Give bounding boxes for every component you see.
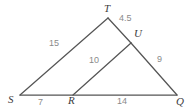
measure-label-RU: 10 xyxy=(89,56,99,65)
segment-RU xyxy=(73,43,131,95)
measure-label-UQ: 9 xyxy=(157,55,162,64)
vertex-label-U: U xyxy=(134,28,142,39)
measure-label-RQ: 14 xyxy=(117,97,127,106)
measure-label-TU: 4.5 xyxy=(119,14,132,23)
vertex-label-Q: Q xyxy=(176,96,184,107)
measure-label-SR: 7 xyxy=(38,98,43,107)
measure-label-ST: 15 xyxy=(49,39,59,48)
vertex-label-T: T xyxy=(104,3,110,14)
vertex-label-S: S xyxy=(8,94,14,105)
geometry-figure: T U S R Q 15 4.5 9 10 7 14 xyxy=(0,0,195,112)
vertex-label-R: R xyxy=(68,95,75,106)
segment-UQ xyxy=(131,43,177,95)
